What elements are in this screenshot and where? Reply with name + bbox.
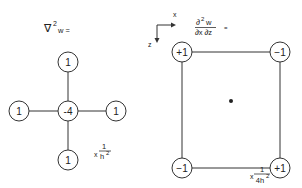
node-bottom: 1 bbox=[58, 150, 78, 170]
svg-text:1: 1 bbox=[65, 57, 71, 68]
node-center: -4 bbox=[58, 101, 78, 121]
node-top-left: +1 bbox=[172, 42, 192, 62]
svg-text:+1: +1 bbox=[274, 163, 286, 174]
svg-text:w: w bbox=[205, 18, 212, 27]
laplacian-exponent: 2 bbox=[53, 20, 57, 27]
svg-text:4h: 4h bbox=[256, 176, 264, 185]
node-top: 1 bbox=[58, 52, 78, 72]
svg-text:x: x bbox=[94, 151, 98, 158]
svg-text:∂x ∂z: ∂x ∂z bbox=[195, 28, 212, 37]
svg-text:=: = bbox=[224, 25, 228, 31]
laplacian-operator-symbol: ∇ bbox=[43, 22, 52, 34]
svg-text:−1: −1 bbox=[176, 163, 188, 174]
svg-text:h: h bbox=[100, 152, 104, 161]
svg-text:x: x bbox=[250, 173, 254, 180]
node-top-right: −1 bbox=[270, 42, 290, 62]
svg-text:1: 1 bbox=[65, 155, 71, 166]
svg-text:1: 1 bbox=[16, 106, 22, 117]
mixed-derivative-stencil: x z ∂ 2 w ∂x ∂z = +1 −1 −1 bbox=[148, 11, 290, 185]
center-point bbox=[229, 99, 233, 103]
svg-text:1: 1 bbox=[260, 165, 264, 174]
svg-text:-4: -4 bbox=[64, 106, 73, 117]
laplacian-variable: w = bbox=[57, 26, 71, 35]
svg-text:∂: ∂ bbox=[196, 18, 200, 27]
x-axis-arrow-icon bbox=[171, 23, 176, 28]
laplacian-scale-factor: x 1 h 2 bbox=[94, 142, 111, 161]
laplacian-stencil: ∇ 2 w = 1 -4 1 1 1 x 1 bbox=[9, 20, 126, 170]
svg-text:−1: −1 bbox=[274, 47, 286, 58]
mixed-derivative-label: ∂ 2 w ∂x ∂z = bbox=[195, 16, 228, 37]
z-axis-arrow-icon bbox=[155, 38, 160, 43]
axes-indicator: x z bbox=[148, 11, 177, 48]
x-axis-label: x bbox=[173, 11, 177, 18]
z-axis-label: z bbox=[148, 41, 152, 48]
stencil-diagram: ∇ 2 w = 1 -4 1 1 1 x 1 bbox=[0, 0, 302, 188]
node-right: 1 bbox=[106, 101, 126, 121]
svg-text:2: 2 bbox=[201, 16, 205, 22]
node-bottom-left: −1 bbox=[172, 158, 192, 178]
node-left: 1 bbox=[9, 101, 29, 121]
svg-text:1: 1 bbox=[113, 106, 119, 117]
svg-text:+1: +1 bbox=[176, 47, 188, 58]
node-bottom-right: +1 bbox=[270, 158, 290, 178]
